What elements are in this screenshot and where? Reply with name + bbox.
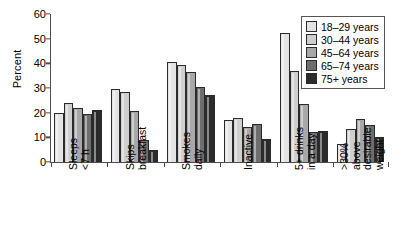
bar-highlight: [235, 120, 237, 162]
bar: [167, 62, 177, 162]
x-axis-category-label-line: weight: [374, 127, 386, 170]
legend-swatch: [306, 47, 317, 58]
x-axis-category-label-line: breakfast: [136, 127, 148, 170]
x-axis-group-tick: [107, 162, 108, 167]
legend-label: 75+ years: [321, 73, 367, 85]
legend-item: 30–44 years: [306, 33, 379, 46]
bar-highlight: [282, 35, 284, 163]
bar-highlight: [226, 122, 228, 162]
legend-label: 18–29 years: [321, 21, 379, 33]
bar-chart: Percent 0102030405060 Sleeps<7 hSkipsbre…: [0, 0, 410, 233]
x-axis-category-label-line: daily: [193, 132, 205, 170]
x-axis-group-tick: [164, 162, 165, 167]
bar: [262, 139, 272, 162]
bar: [149, 150, 159, 162]
x-axis-category-label: 5+ drinksin a day: [294, 127, 317, 170]
bar: [92, 110, 102, 162]
bar: [318, 131, 328, 162]
legend-swatch: [306, 73, 317, 84]
legend: 18–29 years30–44 years45–64 years65–74 y…: [301, 16, 385, 89]
y-axis-tick-label: 10: [34, 131, 46, 143]
bar-highlight: [254, 126, 256, 162]
x-axis-category-label-line: desirable: [362, 127, 374, 170]
y-axis-tick-label: 20: [34, 107, 46, 119]
x-axis-category-label: Inactive: [243, 134, 255, 170]
legend-item: 45–64 years: [306, 46, 379, 59]
x-axis-category-label-line: 5+ drinks: [294, 127, 306, 170]
x-axis-category-label: Smokesdaily: [181, 132, 204, 170]
bar: [280, 33, 290, 163]
legend-label: 65–74 years: [321, 60, 379, 72]
bar: [205, 95, 215, 162]
bar-highlight: [169, 64, 171, 162]
x-axis-group-tick: [277, 162, 278, 167]
x-axis-category-label: Sleeps<7 h: [68, 138, 91, 170]
x-axis-category-label-line: Sleeps: [68, 138, 80, 170]
x-axis-category-label-line: >30%: [339, 127, 351, 170]
bar-highlight: [113, 91, 115, 162]
bar: [224, 120, 234, 162]
bar-highlight: [94, 112, 96, 162]
x-axis-category-label-line: Inactive: [243, 134, 255, 170]
x-axis-category-label-line: Skips: [125, 127, 137, 170]
legend-label: 30–44 years: [321, 34, 379, 46]
legend-label: 45–64 years: [321, 47, 379, 59]
bar-highlight: [264, 141, 266, 162]
x-axis-group-tick: [51, 162, 52, 167]
x-axis-category-label-line: <7 h: [80, 138, 92, 170]
bar-highlight: [320, 133, 322, 162]
x-axis-category-label-line: Smokes: [181, 132, 193, 170]
x-axis-category-label: Skipsbreakfast: [125, 127, 148, 170]
x-axis-group-tick: [388, 162, 389, 167]
legend-item: 75+ years: [306, 72, 379, 85]
bar: [54, 113, 64, 162]
y-axis-tick-label: 30: [34, 82, 46, 94]
legend-item: 18–29 years: [306, 20, 379, 33]
x-axis-category-label-line: in a day: [306, 127, 318, 170]
legend-swatch: [306, 34, 317, 45]
y-axis-tick-labels: 0102030405060: [20, 14, 46, 162]
bar: [111, 89, 121, 162]
bar-highlight: [207, 97, 209, 162]
bar-highlight: [56, 115, 58, 162]
bar-highlight: [151, 152, 153, 162]
y-axis-tick-label: 40: [34, 57, 46, 69]
legend-swatch: [306, 60, 317, 71]
y-axis-tick-label: 50: [34, 33, 46, 45]
legend-item: 65–74 years: [306, 59, 379, 72]
legend-swatch: [306, 21, 317, 32]
x-axis-group-tick: [333, 162, 334, 167]
x-axis-category-label: >30%abovedesirableweight: [339, 127, 385, 170]
y-axis-tick-label: 60: [34, 8, 46, 20]
x-axis-group-tick: [220, 162, 221, 167]
